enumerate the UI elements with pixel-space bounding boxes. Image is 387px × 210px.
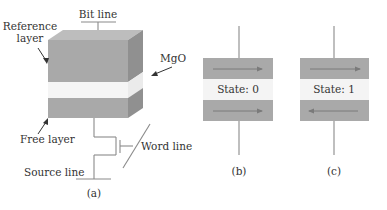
reference-layer-label-2: layer (17, 32, 45, 44)
mgo-barrier-front (48, 82, 128, 98)
caption-b: (b) (232, 165, 247, 177)
mgo-arrowhead (151, 71, 158, 76)
state-0-label: State: 0 (217, 83, 259, 95)
caption-c: (c) (327, 165, 341, 177)
caption-a: (a) (87, 187, 101, 199)
mgo-pointer (155, 67, 172, 74)
state-1-label: State: 1 (313, 83, 355, 95)
bit-line-label: Bit line (79, 8, 117, 20)
panel-c: State: 1 (c) (300, 26, 369, 177)
free-layer-label: Free layer (20, 133, 76, 145)
panel-b: State: 0 (b) (203, 26, 273, 177)
free-layer-front-face (48, 98, 128, 118)
word-line-label: Word line (141, 140, 192, 152)
free-layer-arrowhead (43, 118, 48, 125)
reference-layer-label-1: Reference (3, 20, 57, 32)
access-transistor (76, 118, 150, 179)
panel-a: Bit line Reference layer MgO Free layer (3, 8, 192, 199)
reference-layer-front-face (48, 40, 128, 82)
mtj-diagram: Bit line Reference layer MgO Free layer (0, 0, 387, 210)
reference-layer-top-face (48, 30, 143, 40)
source-line-label: Source line (24, 166, 84, 178)
mgo-label: MgO (160, 52, 186, 64)
